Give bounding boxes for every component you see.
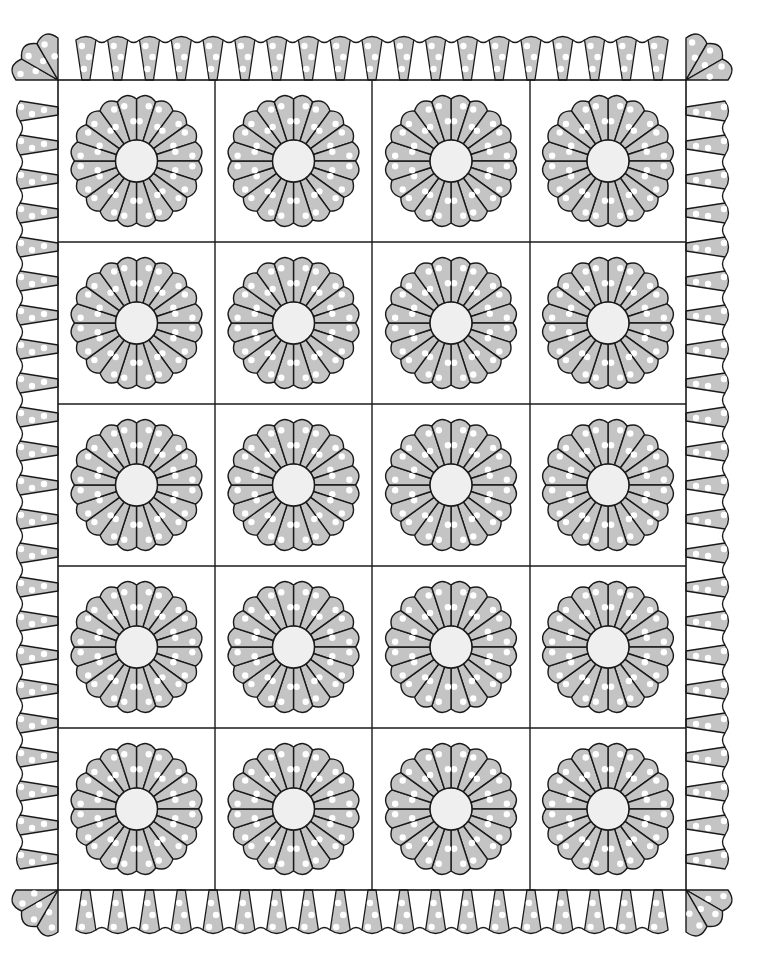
polka-dot (558, 66, 564, 72)
polka-dot (18, 206, 24, 212)
polka-dot (427, 124, 433, 130)
plate-center (430, 464, 472, 506)
polka-dot (278, 751, 284, 757)
polka-dot (136, 846, 142, 852)
polka-dot (121, 699, 127, 705)
polka-dot (303, 265, 309, 271)
polka-dot (531, 912, 537, 918)
border-wedge (686, 679, 729, 699)
polka-dot (269, 448, 275, 454)
polka-dot (490, 195, 496, 201)
border-wedge (686, 713, 729, 733)
polka-dot (583, 268, 589, 274)
polka-dot (146, 537, 152, 543)
polka-dot (85, 348, 91, 354)
scallop-edge (723, 325, 726, 339)
polka-dot (130, 766, 136, 772)
polka-dot (474, 127, 480, 133)
polka-dot (490, 607, 496, 613)
polka-dot (557, 129, 563, 135)
polka-dot (242, 348, 248, 354)
polka-dot (85, 129, 91, 135)
polka-dot (252, 329, 258, 335)
polka-dot (631, 613, 637, 619)
polka-dot (293, 442, 299, 448)
polka-dot (29, 621, 35, 627)
border-wedge (203, 37, 223, 81)
polka-dot (619, 43, 625, 49)
polka-dot (549, 811, 555, 817)
polka-dot (316, 775, 322, 781)
polka-dot (504, 801, 510, 807)
polka-dot (332, 769, 338, 775)
polka-dot (332, 843, 338, 849)
polka-dot (49, 924, 55, 930)
polka-dot (77, 811, 83, 817)
plate-center (430, 302, 472, 344)
wedge-shape (76, 37, 96, 81)
polka-dot (29, 655, 35, 661)
wedge-shape (616, 37, 636, 81)
polka-dot (470, 695, 476, 701)
polka-dot (18, 512, 24, 518)
polka-dot (400, 834, 406, 840)
border-wedge (17, 135, 59, 155)
border-wedge (686, 237, 729, 257)
scallop-edge (20, 257, 23, 271)
polka-dot (287, 604, 293, 610)
polka-dot (268, 430, 274, 436)
polka-dot (41, 107, 47, 113)
polka-dot (339, 186, 345, 192)
wedge-shape (17, 815, 59, 835)
polka-dot (627, 695, 633, 701)
scallop-edge (636, 928, 648, 931)
polka-dot (642, 659, 648, 665)
polka-dot (154, 678, 160, 684)
polka-dot (170, 497, 176, 503)
polka-dot (642, 173, 648, 179)
polka-dot (18, 138, 24, 144)
polka-dot (175, 121, 181, 127)
polka-dot (242, 129, 248, 135)
polka-dot (587, 43, 593, 49)
polka-dot (146, 375, 152, 381)
polka-dot (631, 775, 637, 781)
polka-dot (445, 280, 451, 286)
polka-dot (587, 924, 593, 930)
polka-dot (316, 451, 322, 457)
polka-dot (144, 66, 150, 72)
polka-dot (644, 796, 650, 802)
polka-dot (41, 175, 47, 181)
scallop-edge (723, 121, 726, 135)
polka-dot (313, 592, 319, 598)
polka-dot (602, 280, 608, 286)
border-wedge (298, 37, 318, 81)
polka-dot (490, 843, 496, 849)
polka-dot (333, 924, 339, 930)
polka-dot (705, 179, 711, 185)
polka-dot (584, 772, 590, 778)
polka-dot (436, 265, 442, 271)
dresden-plate (543, 96, 674, 227)
polka-dot (332, 195, 338, 201)
polka-dot (504, 315, 510, 321)
polka-dot (557, 186, 563, 192)
polka-dot (156, 695, 162, 701)
polka-dot (566, 167, 572, 173)
polka-dot (653, 129, 659, 135)
wedge-shape (108, 37, 128, 81)
polka-dot (269, 124, 275, 130)
dresden-plate (543, 258, 674, 389)
polka-dot (627, 371, 633, 377)
polka-dot (608, 360, 614, 366)
polka-dot (485, 659, 491, 665)
polka-dot (175, 195, 181, 201)
polka-dot (460, 265, 466, 271)
border-wedge (17, 271, 59, 291)
polka-dot (175, 681, 181, 687)
border-wedge (457, 37, 477, 81)
polka-dot (268, 754, 274, 760)
polka-dot (661, 649, 667, 655)
border-wedge (17, 441, 59, 461)
scallop-edge (20, 393, 23, 407)
